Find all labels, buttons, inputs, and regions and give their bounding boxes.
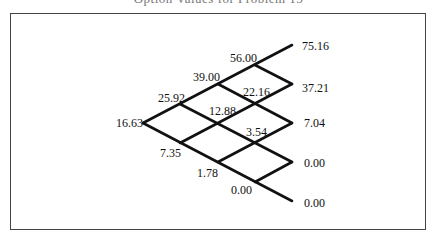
node-s4-2-value: 7.04 xyxy=(304,117,325,129)
node-s2-0-value: 39.00 xyxy=(193,71,220,83)
node-s2-2-value: 1.78 xyxy=(197,167,218,179)
tree-lattice xyxy=(0,0,437,243)
node-s3-2-value: 3.54 xyxy=(246,126,267,138)
node-s3-1-value: 22.16 xyxy=(243,86,270,98)
node-s2-1-value: 12.88 xyxy=(209,105,236,117)
node-root-value: 16.63 xyxy=(116,117,143,129)
node-s4-3-value: 0.00 xyxy=(304,157,325,169)
node-s1-1-value: 7.35 xyxy=(160,147,181,159)
node-s4-4-value: 0.00 xyxy=(304,197,325,209)
node-s4-0-value: 75.16 xyxy=(302,40,329,52)
node-s3-3-value: 0.00 xyxy=(231,184,252,196)
node-s1-0-value: 25.92 xyxy=(158,92,185,104)
node-s4-1-value: 37.21 xyxy=(302,82,329,94)
node-s3-0-value: 56.00 xyxy=(230,52,257,64)
